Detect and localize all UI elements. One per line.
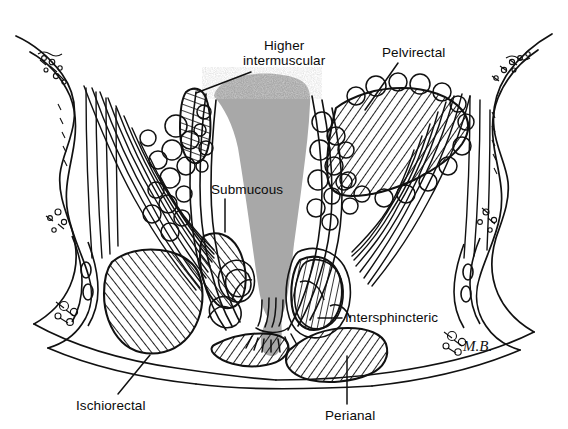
label-perianal: Perianal: [325, 408, 375, 423]
label-higher-intermuscular-line2: intermuscular: [243, 53, 325, 68]
label-intersphincteric-line1: Intersphincteric: [345, 310, 438, 325]
label-perianal-line1: Perianal: [325, 408, 375, 423]
anorectal-spaces-figure: HigherintermuscularPelvirectalSubmucousI…: [0, 0, 568, 429]
label-ischiorectal-line1: Ischiorectal: [76, 398, 145, 413]
label-intersphincteric: Intersphincteric: [345, 310, 438, 325]
label-ischiorectal: Ischiorectal: [76, 398, 145, 413]
label-submucous-line1: Submucous: [211, 182, 283, 197]
label-higher-intermuscular: Higherintermuscular: [243, 38, 325, 68]
label-submucous: Submucous: [211, 182, 283, 197]
artist-signature: M.B.: [463, 338, 492, 355]
label-pelvirectal: Pelvirectal: [382, 45, 445, 60]
label-pelvirectal-line1: Pelvirectal: [382, 45, 445, 60]
label-higher-intermuscular-line1: Higher: [264, 38, 304, 53]
perianal-space: [212, 328, 388, 382]
